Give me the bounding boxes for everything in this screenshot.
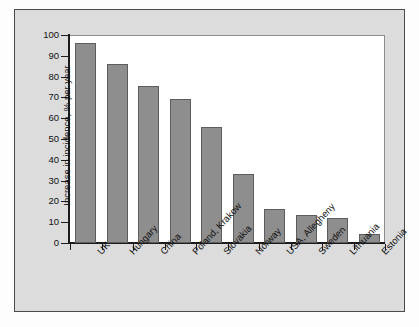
x-axis-tick-label: Slovakia <box>221 249 229 257</box>
x-axis-tick-label: USA, Allegheny <box>284 249 292 257</box>
chart-figure: 1009080706050403020100 Increase in incid… <box>0 0 419 327</box>
x-axis-tick-label: UK <box>95 249 103 257</box>
x-axis-tick-label: Estonia <box>379 249 387 257</box>
x-axis-tick-label: Lithuania <box>347 249 355 257</box>
x-axis-tick-label: Norway <box>253 249 261 257</box>
x-axis-tick-label: Poland, Krakow <box>190 249 198 257</box>
x-axis-tick-label: Hungary <box>127 249 135 257</box>
x-axis-tick-label: Sweden <box>316 249 324 257</box>
x-axis-tick-labels: UKHungaryChinaPoland, KrakowSlovakiaNorw… <box>0 0 419 327</box>
x-axis-tick-label: China <box>158 249 166 257</box>
